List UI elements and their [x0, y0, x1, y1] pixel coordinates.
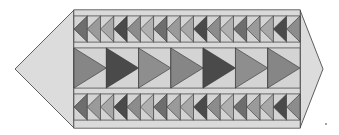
middle-large-geese-row	[74, 48, 300, 88]
bottom-small-geese-row	[74, 94, 300, 120]
sashing-strip	[74, 42, 300, 48]
sashing-strip	[74, 120, 300, 128]
quilt-diagram	[0, 0, 339, 135]
sashing-strip	[74, 88, 300, 94]
left-end-point-triangle	[15, 10, 74, 128]
geese-rows	[74, 16, 300, 120]
sashing-strip	[74, 10, 300, 16]
top-small-geese-row	[74, 16, 300, 42]
corner-dot-mark	[325, 123, 327, 125]
right-end-point-triangle	[300, 10, 323, 128]
